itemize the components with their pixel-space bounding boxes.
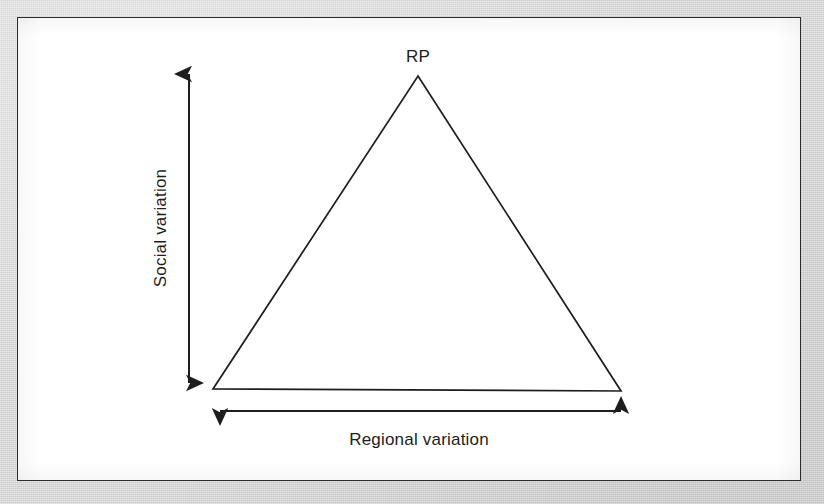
scanned-page: RP Social variation Regional variation [0, 0, 824, 504]
apex-label-rp: RP [406, 47, 430, 66]
vertical-axis-label: Social variation [151, 169, 170, 287]
variation-triangle-diagram: RP Social variation Regional variation [18, 18, 802, 482]
horizontal-axis-label: Regional variation [349, 430, 489, 449]
figure-frame: RP Social variation Regional variation [17, 17, 801, 481]
variation-triangle [213, 76, 621, 391]
